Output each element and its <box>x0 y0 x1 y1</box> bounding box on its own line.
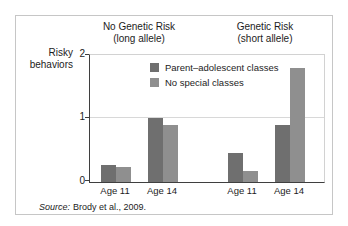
legend-item-parent-adolescent: Parent–adolescent classes <box>150 62 279 73</box>
y-axis-title-line1: Risky <box>16 47 73 59</box>
bar-series0-age-14-group2 <box>275 125 290 182</box>
legend: Parent–adolescent classes No special cla… <box>150 62 279 92</box>
x-tick-label-age11-risk: Age 11 <box>220 185 264 196</box>
group-title-line1: Genetic Risk <box>200 21 330 33</box>
bar-series1-age-14-group1 <box>163 125 178 182</box>
figure-canvas: No Genetic Risk (long allele) Genetic Ri… <box>0 0 348 226</box>
legend-label: Parent–adolescent classes <box>165 62 279 73</box>
legend-swatch-light-icon <box>150 78 159 87</box>
bar-series1-age-14-group2 <box>290 68 305 182</box>
bar-series0-age-14-group1 <box>148 118 163 182</box>
group-title-line2: (short allele) <box>200 33 330 45</box>
group-title-line2: (long allele) <box>74 33 204 45</box>
bar-series1-age-11-group1 <box>116 167 131 182</box>
group-title-genetic-risk: Genetic Risk (short allele) <box>200 21 330 45</box>
x-tick-label-age14-norisk: Age 14 <box>140 185 184 196</box>
source-label: Source: <box>39 202 70 212</box>
x-tick-label-age11-norisk: Age 11 <box>93 185 137 196</box>
source-text: Brody et al., 2009. <box>73 202 146 212</box>
legend-label: No special classes <box>165 77 244 88</box>
plot-area: Parent–adolescent classes No special cla… <box>89 54 325 183</box>
source-citation: Source:Brody et al., 2009. <box>39 202 146 212</box>
group-title-no-genetic-risk: No Genetic Risk (long allele) <box>74 21 204 45</box>
y-tick-label-1: 1 <box>73 111 85 122</box>
x-tick-label-age14-risk: Age 14 <box>267 185 311 196</box>
y-axis-title-line2: behaviors <box>16 59 73 71</box>
gridline-y1 <box>90 117 324 118</box>
y-tick-label-2: 2 <box>73 48 85 59</box>
bar-series0-age-11-group2 <box>228 153 243 182</box>
figure-border-box: No Genetic Risk (long allele) Genetic Ri… <box>15 15 333 215</box>
legend-swatch-dark-icon <box>150 63 159 72</box>
group-title-line1: No Genetic Risk <box>74 21 204 33</box>
bar-series0-age-11-group1 <box>101 165 116 182</box>
y-axis-title: Risky behaviors <box>16 47 73 71</box>
bar-series1-age-11-group2 <box>243 171 258 182</box>
legend-item-no-special: No special classes <box>150 77 279 88</box>
y-tick-label-0: 0 <box>73 175 85 186</box>
